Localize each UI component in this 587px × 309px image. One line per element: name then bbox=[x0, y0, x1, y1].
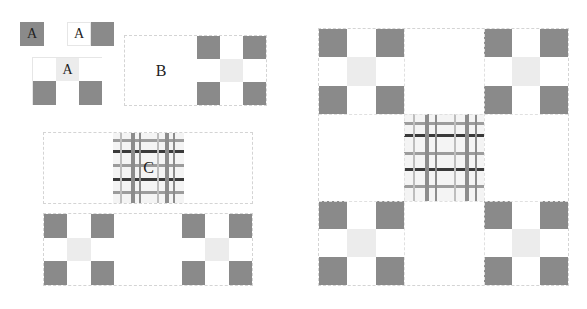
tile-a-white: A bbox=[67, 22, 91, 46]
block-c: C bbox=[43, 132, 253, 204]
label-b: B bbox=[156, 62, 167, 80]
pattern-3x3-top-right bbox=[484, 29, 568, 114]
block-b: B bbox=[124, 35, 267, 106]
pattern-3x3-bottom-left bbox=[319, 201, 404, 285]
block-a3: A bbox=[32, 57, 102, 105]
label-c: C bbox=[143, 159, 154, 177]
grid-patch: C bbox=[113, 133, 184, 203]
pattern-3x3 bbox=[44, 214, 114, 285]
pattern-3x3-bottom-right bbox=[484, 201, 568, 285]
block-full bbox=[318, 28, 569, 286]
block-strip bbox=[43, 213, 253, 286]
label-a: A bbox=[27, 26, 37, 42]
label-a: A bbox=[74, 26, 84, 42]
pattern-3x3 bbox=[197, 36, 266, 105]
tile-a-light: A bbox=[56, 58, 79, 81]
pattern-3x3-top-left bbox=[319, 29, 404, 114]
tile-a-dark: A bbox=[20, 22, 44, 46]
grid-patch-center bbox=[404, 114, 484, 201]
b-white-area: B bbox=[125, 36, 197, 105]
pattern-3x3 bbox=[182, 214, 252, 285]
label-a: A bbox=[62, 62, 72, 78]
tile-dark bbox=[91, 22, 114, 46]
